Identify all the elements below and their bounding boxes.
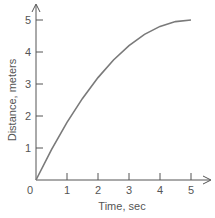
y-tick-label: 1 bbox=[25, 142, 31, 154]
x-tick-label: 5 bbox=[188, 184, 194, 196]
x-tick-label: 3 bbox=[126, 184, 132, 196]
x-tick-label: 1 bbox=[64, 184, 70, 196]
y-tick-label: 5 bbox=[25, 14, 31, 26]
x-ticks: 012345 bbox=[27, 173, 194, 196]
x-axis-title: Time, sec bbox=[98, 200, 146, 212]
y-axis-title: Distance, meters bbox=[6, 58, 18, 141]
x-tick-label: 2 bbox=[95, 184, 101, 196]
distance-curve bbox=[36, 20, 191, 180]
y-tick-label: 4 bbox=[25, 46, 31, 58]
x-tick-label: 0 bbox=[27, 184, 33, 196]
y-tick-label: 2 bbox=[25, 110, 31, 122]
x-tick-label: 4 bbox=[157, 184, 163, 196]
y-tick-label: 3 bbox=[25, 78, 31, 90]
y-ticks: 12345 bbox=[25, 14, 43, 154]
distance-time-chart: 012345 12345 Time, sec Distance, meters bbox=[0, 0, 215, 218]
